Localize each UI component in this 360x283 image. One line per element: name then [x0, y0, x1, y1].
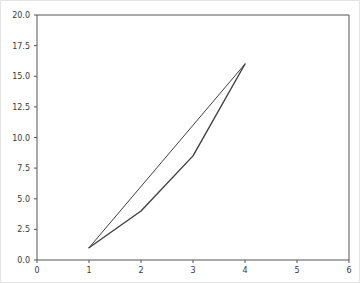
- y-tick-label-2: 5.0: [17, 195, 30, 204]
- y-tick-label-7: 17.5: [12, 42, 30, 51]
- line-chart: 0 1 2 3 4 5 6 0.0 2.5 5.0 7.5 10.0 12.5: [1, 1, 360, 283]
- y-tick-label-0: 0.0: [17, 256, 30, 265]
- x-tick-label-1: 1: [86, 266, 91, 275]
- y-axis-tick-labels: 0.0 2.5 5.0 7.5 10.0 12.5 15.0 17.5 20.0: [12, 11, 30, 265]
- x-tick-label-6: 6: [346, 266, 351, 275]
- x-tick-label-5: 5: [294, 266, 299, 275]
- y-tick-label-5: 12.5: [12, 103, 30, 112]
- y-tick-label-6: 15.0: [12, 72, 30, 81]
- x-axis-tick-labels: 0 1 2 3 4 5 6: [34, 266, 351, 275]
- x-tick-label-2: 2: [138, 266, 143, 275]
- x-tick-label-0: 0: [34, 266, 39, 275]
- axes-spines: [37, 15, 349, 260]
- y-tick-label-4: 10.0: [12, 134, 30, 143]
- figure-container: 0 1 2 3 4 5 6 0.0 2.5 5.0 7.5 10.0 12.5: [0, 0, 360, 283]
- x-tick-label-4: 4: [242, 266, 247, 275]
- y-tick-label-3: 7.5: [17, 164, 30, 173]
- y-tick-label-1: 2.5: [17, 225, 30, 234]
- series-line-straight-segment: [89, 64, 245, 248]
- data-series-group: [89, 64, 245, 248]
- x-tick-label-3: 3: [190, 266, 195, 275]
- y-tick-label-8: 20.0: [12, 11, 30, 20]
